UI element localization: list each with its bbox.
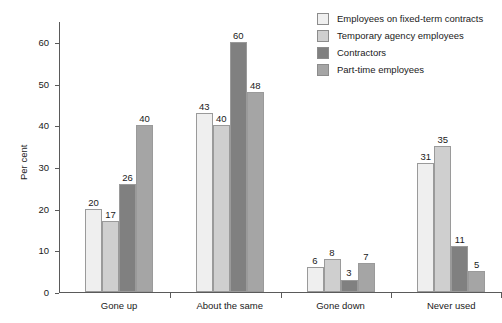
bar	[468, 271, 485, 292]
bar-value-label: 20	[81, 197, 106, 208]
y-axis-tick	[55, 293, 59, 294]
bar	[136, 125, 153, 292]
bar	[85, 209, 102, 292]
x-axis-tick	[391, 293, 392, 298]
x-axis-group-label: Gone up	[59, 300, 179, 311]
bar-value-label: 60	[226, 30, 251, 41]
bar	[417, 163, 434, 292]
bar-value-label: 35	[430, 134, 455, 145]
y-axis-tick	[55, 168, 59, 169]
bar-chart: Employees on fixed-term contracts Tempor…	[0, 0, 502, 323]
bar	[307, 267, 324, 292]
bar-value-label: 40	[132, 113, 157, 124]
y-axis-tick	[55, 43, 59, 44]
bar-value-label: 31	[413, 151, 438, 162]
bar-value-label: 48	[243, 80, 268, 91]
y-axis-tick	[55, 85, 59, 86]
y-axis-tick-label: 10	[29, 245, 49, 256]
x-axis-tick	[170, 293, 171, 298]
y-axis-tick-label: 50	[29, 79, 49, 90]
y-axis-tick-label: 0	[29, 287, 49, 298]
y-axis-tick-label: 30	[29, 162, 49, 173]
y-axis-tick-label: 40	[29, 120, 49, 131]
bar-value-label: 11	[447, 234, 472, 245]
bar-value-label: 17	[98, 209, 123, 220]
x-axis-group-label: Never used	[391, 300, 502, 311]
y-axis-tick	[55, 210, 59, 211]
bar	[247, 92, 264, 292]
bar	[102, 221, 119, 292]
bar-value-label: 43	[192, 101, 217, 112]
x-axis-group-label: Gone down	[281, 300, 401, 311]
x-axis-tick	[281, 293, 282, 298]
bar-value-label: 3	[337, 267, 362, 278]
y-axis-tick	[55, 251, 59, 252]
bar	[196, 113, 213, 292]
y-axis-tick-label: 20	[29, 204, 49, 215]
x-axis-group-label: About the same	[170, 300, 290, 311]
bar-value-label: 40	[209, 113, 234, 124]
bar	[434, 146, 451, 292]
plot-area: 201726404340604868373135115	[59, 22, 502, 293]
y-axis-tick	[55, 126, 59, 127]
y-axis-tick-label: 60	[29, 37, 49, 48]
bar-value-label: 8	[320, 247, 345, 258]
bar-value-label: 7	[354, 251, 379, 262]
bar	[213, 125, 230, 292]
y-axis-title: Per cent	[18, 144, 29, 179]
bar	[119, 184, 136, 292]
y-axis-line	[59, 22, 60, 293]
bar	[341, 280, 358, 293]
bar-value-label: 5	[464, 259, 489, 270]
bar-value-label: 26	[115, 172, 140, 183]
